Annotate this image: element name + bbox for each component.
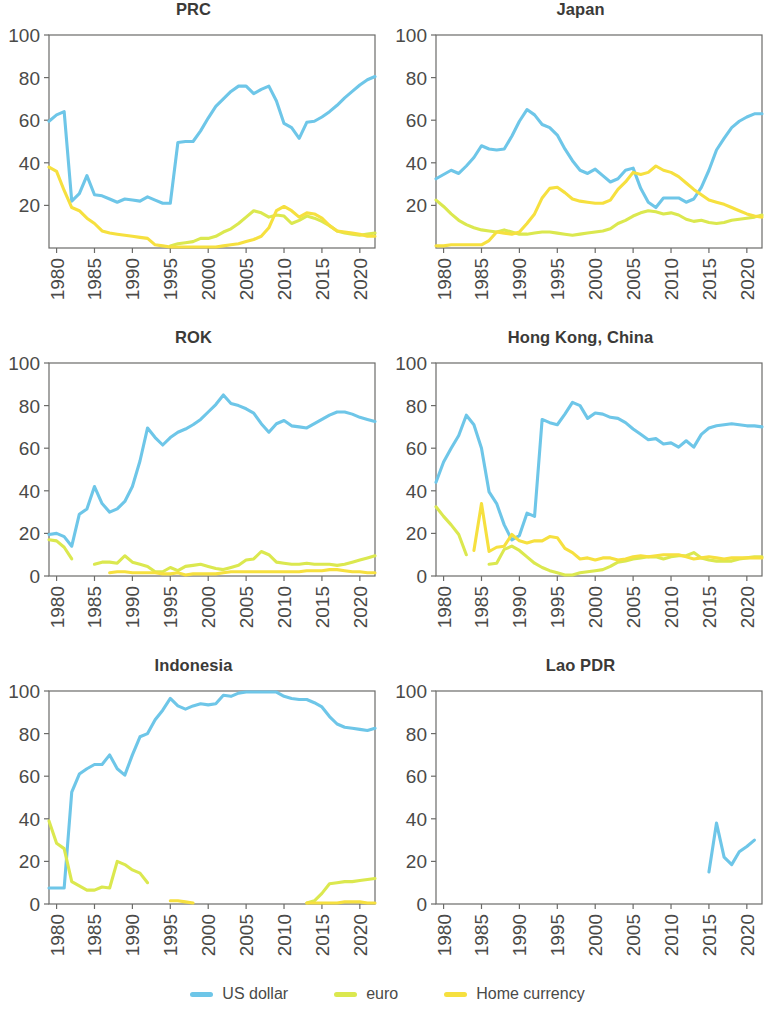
x-tick-label: 1985: [471, 258, 492, 300]
x-tick-label: 2010: [661, 914, 682, 956]
x-tick-label: 2020: [350, 258, 371, 300]
x-tick-label: 2005: [236, 258, 257, 300]
legend-label-euro: euro: [366, 985, 398, 1003]
panel-indonesia: Indonesia 020406080100198019851990199520…: [0, 656, 387, 981]
y-tick-label: 80: [19, 68, 40, 89]
x-tick-label: 2000: [585, 586, 606, 628]
chart-svg: 2040608010019801985199019952000200520102…: [387, 0, 774, 325]
x-tick-label: 1995: [547, 914, 568, 956]
chart-svg: 2040608010019801985199019952000200520102…: [0, 0, 387, 325]
y-tick-label: 80: [406, 68, 427, 89]
x-tick-label: 2000: [198, 914, 219, 956]
y-tick-label: 20: [19, 523, 40, 544]
x-tick-label: 2000: [198, 258, 219, 300]
y-tick-label: 20: [406, 851, 427, 872]
x-tick-label: 1980: [47, 914, 68, 956]
y-tick-label: 60: [406, 110, 427, 131]
legend-item-us-dollar: US dollar: [190, 985, 288, 1003]
plot-area-hong-kong-china: 0204060801001980198519901995200020052010…: [387, 328, 774, 653]
series-line-euro: [436, 507, 466, 555]
chart-svg: 0204060801001980198519901995200020052010…: [0, 656, 387, 981]
x-tick-label: 2000: [585, 914, 606, 956]
x-tick-label: 2020: [350, 914, 371, 956]
x-tick-label: 2010: [661, 258, 682, 300]
series-line-us-dollar: [49, 692, 375, 888]
y-tick-label: 0: [416, 566, 427, 587]
series-line-euro: [489, 546, 762, 575]
x-tick-label: 1995: [547, 258, 568, 300]
x-tick-label: 2015: [312, 586, 333, 628]
x-tick-label: 2010: [274, 914, 295, 956]
plot-frame: [49, 35, 375, 248]
x-tick-label: 2005: [236, 586, 257, 628]
x-tick-label: 2010: [661, 586, 682, 628]
legend-label-us-dollar: US dollar: [222, 985, 288, 1003]
x-tick-label: 1990: [509, 586, 530, 628]
x-tick-label: 1985: [84, 258, 105, 300]
x-tick-label: 2010: [274, 586, 295, 628]
panel-rok: ROK 020406080100198019851990199520002005…: [0, 328, 387, 653]
y-tick-label: 100: [8, 25, 40, 46]
y-tick-label: 60: [19, 110, 40, 131]
legend-item-home-currency: Home currency: [444, 985, 584, 1003]
chart-svg: 0204060801001980198519901995200020052010…: [387, 656, 774, 981]
plot-frame: [49, 691, 375, 904]
y-tick-label: 0: [416, 894, 427, 915]
legend-swatch-euro: [334, 992, 357, 997]
legend-swatch-us-dollar: [190, 992, 213, 997]
y-tick-label: 40: [406, 153, 427, 174]
y-tick-label: 40: [19, 481, 40, 502]
series-line-us-dollar: [49, 77, 375, 204]
series-line-euro: [436, 200, 762, 235]
x-tick-label: 2015: [312, 914, 333, 956]
plot-area-prc: 2040608010019801985199019952000200520102…: [0, 0, 387, 325]
x-tick-label: 1980: [434, 586, 455, 628]
x-tick-label: 2020: [737, 586, 758, 628]
x-tick-label: 1995: [160, 914, 181, 956]
x-tick-label: 2005: [623, 258, 644, 300]
x-tick-label: 1985: [84, 586, 105, 628]
x-tick-label: 2015: [699, 586, 720, 628]
x-tick-label: 2015: [312, 258, 333, 300]
chart-svg: 0204060801001980198519901995200020052010…: [387, 328, 774, 653]
x-tick-label: 1985: [471, 586, 492, 628]
panel-japan: Japan 2040608010019801985199019952000200…: [387, 0, 774, 325]
series-line-home-currency: [110, 570, 375, 575]
x-tick-label: 2000: [198, 586, 219, 628]
series-line-home-currency: [436, 166, 762, 246]
x-tick-label: 1980: [434, 258, 455, 300]
y-tick-label: 100: [8, 353, 40, 374]
y-tick-label: 80: [406, 396, 427, 417]
x-tick-label: 2020: [737, 914, 758, 956]
series-line-home-currency: [170, 901, 193, 903]
x-tick-label: 1995: [547, 586, 568, 628]
y-tick-label: 20: [19, 851, 40, 872]
series-line-home-currency: [49, 167, 375, 247]
series-line-us-dollar: [49, 395, 375, 546]
y-tick-label: 80: [19, 396, 40, 417]
x-tick-label: 2015: [699, 914, 720, 956]
x-tick-label: 2005: [623, 914, 644, 956]
x-tick-label: 2010: [274, 258, 295, 300]
plot-area-lao-pdr: 0204060801001980198519901995200020052010…: [387, 656, 774, 981]
series-line-us-dollar: [436, 110, 762, 208]
x-tick-label: 2005: [623, 586, 644, 628]
series-line-home-currency: [307, 902, 375, 903]
y-tick-label: 80: [19, 724, 40, 745]
y-tick-label: 100: [395, 25, 427, 46]
y-tick-label: 40: [406, 481, 427, 502]
plot-area-japan: 2040608010019801985199019952000200520102…: [387, 0, 774, 325]
y-tick-label: 20: [406, 195, 427, 216]
y-tick-label: 20: [406, 523, 427, 544]
series-line-us-dollar: [709, 823, 754, 872]
x-tick-label: 2020: [737, 258, 758, 300]
y-tick-label: 0: [29, 894, 40, 915]
x-tick-label: 1985: [471, 914, 492, 956]
y-tick-label: 100: [395, 681, 427, 702]
figure-root: PRC 204060801001980198519901995200020052…: [0, 0, 775, 1020]
y-tick-label: 60: [19, 766, 40, 787]
y-tick-label: 0: [29, 566, 40, 587]
y-tick-label: 100: [8, 681, 40, 702]
y-tick-label: 60: [406, 438, 427, 459]
x-tick-label: 1990: [122, 914, 143, 956]
